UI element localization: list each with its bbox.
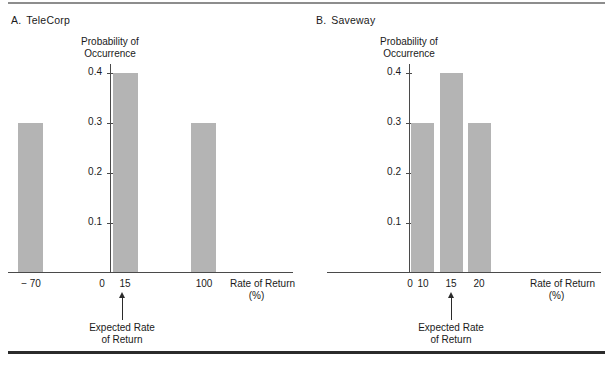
y-tick-label-a-0.4: 0.4 xyxy=(60,66,102,77)
x-axis-title-a-line2: (%) xyxy=(218,290,295,302)
y-axis-title-b-line1: Probability of xyxy=(380,36,438,47)
y-axis-line-b xyxy=(409,64,410,273)
x-tick-label-a--70: − 70 xyxy=(8,278,54,289)
expected-return-label-b: Expected Rate of Return xyxy=(401,322,501,345)
y-axis-title-b-line2: Occurrence xyxy=(383,48,435,59)
y-tick-label-b-0.1: 0.1 xyxy=(359,216,401,227)
y-tick-label-b-0.2: 0.2 xyxy=(359,166,401,177)
expected-return-label-b-line2: of Return xyxy=(430,334,471,345)
x-tick-label-a-15: 15 xyxy=(113,278,137,289)
y-axis-title-a: Probability of Occurrence xyxy=(60,36,160,59)
chart-panel-saveway: B.Saveway Probability of Occurrence 0.4 … xyxy=(305,0,610,351)
x-axis-title-b-line2: (%) xyxy=(518,290,595,302)
bar-saveway-10 xyxy=(411,123,434,272)
x-axis-title-b-line1: Rate of Return xyxy=(530,278,595,289)
x-axis-line-b xyxy=(327,272,601,273)
y-tick-label-b-0.4: 0.4 xyxy=(359,66,401,77)
expected-return-label-a-line2: of Return xyxy=(101,334,142,345)
chart-panel-telecorp: A.TeleCorp Probability of Occurrence 0.4… xyxy=(0,0,305,351)
y-tick-label-b-0.3: 0.3 xyxy=(359,116,401,127)
bar-telecorp-100 xyxy=(191,123,216,272)
x-tick-label-b-20: 20 xyxy=(467,278,491,289)
x-tick-label-a-100: 100 xyxy=(190,278,218,289)
x-tick-label-b-10: 10 xyxy=(411,278,435,289)
y-tick-mark-b-0.4 xyxy=(406,73,412,74)
y-axis-title-a-line1: Probability of xyxy=(81,36,139,47)
expected-return-label-a: Expected Rate of Return xyxy=(72,322,172,345)
expected-return-label-a-line1: Expected Rate xyxy=(89,322,155,333)
bottom-divider-rule xyxy=(8,351,605,354)
annotation-stem-a xyxy=(122,298,123,320)
y-tick-label-a-0.1: 0.1 xyxy=(60,216,102,227)
x-axis-title-b: Rate of Return (%) xyxy=(530,278,595,301)
annotation-stem-b xyxy=(451,298,452,320)
expected-return-label-b-line1: Expected Rate xyxy=(418,322,484,333)
bar-telecorp--70 xyxy=(18,123,43,272)
x-axis-line-a xyxy=(8,272,293,273)
y-tick-label-a-0.3: 0.3 xyxy=(60,116,102,127)
bar-saveway-20 xyxy=(468,123,491,272)
y-axis-line-a xyxy=(110,64,111,273)
y-axis-title-b: Probability of Occurrence xyxy=(359,36,459,59)
x-tick-label-b-15: 15 xyxy=(439,278,463,289)
bar-saveway-15 xyxy=(440,73,463,272)
x-tick-label-a-0: 0 xyxy=(92,278,112,289)
plot-area-b: Probability of Occurrence 0.4 0.3 0.2 0.… xyxy=(305,0,610,351)
y-axis-title-a-line2: Occurrence xyxy=(84,48,136,59)
y-tick-label-a-0.2: 0.2 xyxy=(60,166,102,177)
bar-telecorp-15 xyxy=(113,73,138,272)
x-axis-title-a: Rate of Return (%) xyxy=(230,278,295,301)
x-axis-title-a-line1: Rate of Return xyxy=(230,278,295,289)
plot-area-a: Probability of Occurrence 0.4 0.3 0.2 0.… xyxy=(0,0,305,351)
